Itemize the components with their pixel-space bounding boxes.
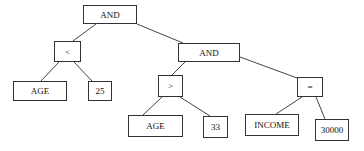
edge-and-right-eq (240, 57, 297, 78)
node-value-30000: 30000 (315, 119, 349, 141)
edge-gt-age-2 (143, 97, 162, 115)
node-value-33: 33 (203, 116, 228, 138)
node-age-2: AGE (128, 115, 183, 137)
edge-gt-val-33 (180, 97, 210, 116)
node-age-1: AGE (13, 81, 67, 101)
node-value-25: 25 (88, 81, 112, 101)
edge-and-root-lt (73, 24, 96, 41)
edge-eq-income (276, 97, 302, 114)
node-and-root: AND (83, 5, 137, 24)
edge-and-right-gt (172, 62, 185, 75)
edge-eq-val-30000 (316, 97, 325, 119)
node-equals: = (297, 77, 323, 97)
node-and-right: AND (178, 43, 240, 62)
edge-and-root-and-right (137, 24, 183, 43)
edge-lt-age-1 (41, 62, 59, 81)
node-income: INCOME (245, 114, 299, 136)
node-greater-than: > (158, 75, 183, 97)
node-less-than: < (54, 41, 81, 62)
edge-lt-val-25 (74, 62, 92, 81)
